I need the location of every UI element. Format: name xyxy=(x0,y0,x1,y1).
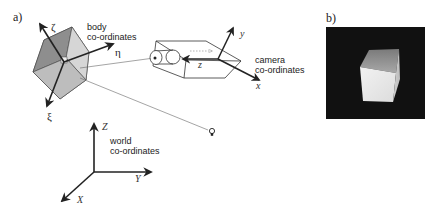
world-title-1: world xyxy=(109,136,132,146)
camera-x-label: x xyxy=(255,80,261,91)
figure: a) ζ η ξ body co-ordinates z y x xyxy=(0,0,443,216)
xi-label: ξ xyxy=(47,110,52,123)
panel-b-label: b) xyxy=(326,11,336,25)
world-x-label: X xyxy=(76,194,84,205)
world-title-2: co-ordinates xyxy=(110,146,160,156)
eta-label: η xyxy=(115,46,121,58)
lightbulb-icon xyxy=(209,128,214,135)
camera-y-label: y xyxy=(239,28,245,39)
world-y-label: Y xyxy=(135,173,142,184)
panel-a-label: a) xyxy=(13,10,22,24)
rendered-photo xyxy=(326,27,425,119)
ray-to-camera xyxy=(80,58,154,68)
body-title-2: co-ordinates xyxy=(87,32,137,42)
zeta-label: ζ xyxy=(51,21,56,34)
ray-to-light xyxy=(80,78,208,130)
body-title-1: body xyxy=(87,22,107,32)
camera-title-1: camera xyxy=(255,55,285,65)
world-z-label: Z xyxy=(102,121,108,132)
body-cube xyxy=(33,27,89,99)
camera-title-2: co-ordinates xyxy=(255,65,305,75)
camera-z-label: z xyxy=(197,59,202,70)
